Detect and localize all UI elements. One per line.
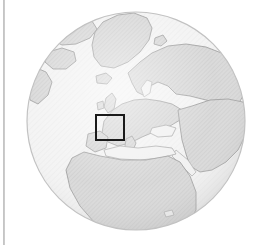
globe-stage: [0, 0, 261, 245]
globe-map: [0, 0, 261, 245]
region-highlight-box[interactable]: [95, 114, 125, 141]
globe-locator-figure: Orthographic globe locator map centred o…: [0, 0, 261, 245]
globe-limb-shading: [27, 12, 245, 230]
